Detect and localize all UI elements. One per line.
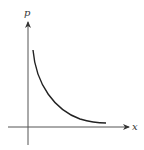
diagram-canvas: p x — [0, 0, 144, 150]
x-axis-label: x — [132, 121, 138, 132]
y-axis-label: p — [24, 7, 31, 18]
decreasing-curve — [33, 50, 106, 123]
